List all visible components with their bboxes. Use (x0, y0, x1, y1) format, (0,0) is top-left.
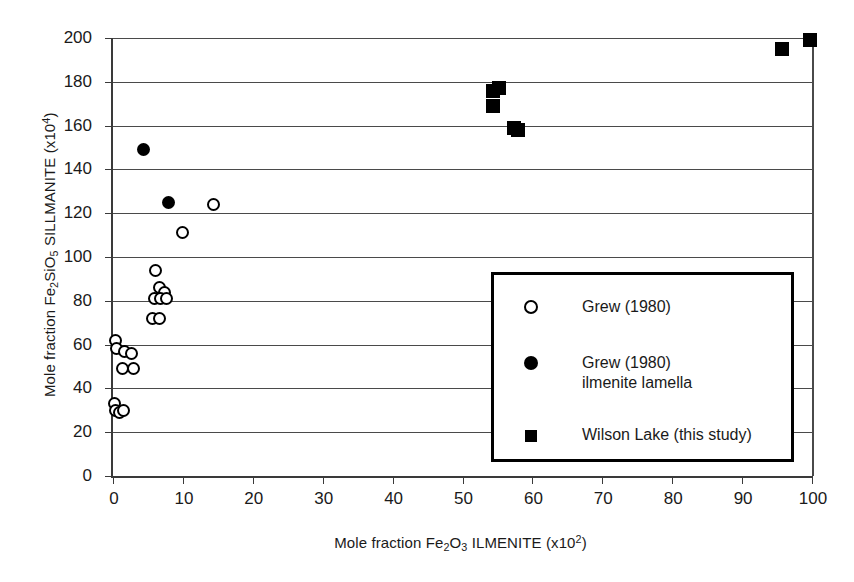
data-point (153, 312, 166, 325)
plot-frame-right (812, 38, 814, 476)
data-point (803, 33, 817, 47)
y-axis-title-mid: SiO (41, 256, 58, 281)
y-tick-100: 100 (105, 257, 113, 258)
gridline-y-160 (113, 126, 812, 127)
legend-label: Grew (1980) ilmenite lamella (582, 353, 692, 393)
y-tick-label-80: 80 (73, 291, 92, 311)
gridline-y-120 (113, 213, 812, 214)
x-tick-label-50: 50 (454, 489, 473, 509)
x-axis-title-prefix: Mole fraction Fe (334, 534, 443, 551)
y-tick-20: 20 (105, 432, 113, 433)
x-tick-label-100: 100 (799, 489, 827, 509)
scatter-chart-figure: Mole fraction Fe2SiO5 SILLMANITE (x104) … (0, 0, 854, 582)
x-tick-label-40: 40 (384, 489, 403, 509)
x-tick-40: 40 (393, 476, 394, 484)
y-tick-40: 40 (105, 388, 113, 389)
x-tick-100: 100 (812, 476, 813, 484)
x-tick-label-20: 20 (244, 489, 263, 509)
data-point (162, 196, 175, 209)
gridline-y-140 (113, 169, 812, 170)
y-axis-title-prefix: Mole fraction Fe (41, 288, 58, 397)
y-axis-title-sub2: 5 (48, 250, 60, 256)
y-tick-0: 0 (105, 476, 113, 477)
data-point (117, 404, 130, 417)
x-tick-label-30: 30 (314, 489, 333, 509)
x-tick-label-70: 70 (594, 489, 613, 509)
data-point (160, 292, 173, 305)
y-tick-180: 180 (105, 82, 113, 83)
y-tick-label-200: 200 (64, 28, 92, 48)
y-axis-title-tail: ) (41, 113, 58, 118)
x-axis-title: Mole fraction Fe2O3 ILMENITE (x102) (111, 533, 810, 553)
gridline-y-200 (113, 38, 812, 39)
y-axis-title-exponent: 4 (40, 118, 52, 124)
x-tick-label-60: 60 (524, 489, 543, 509)
data-point (125, 347, 138, 360)
x-tick-label-0: 0 (109, 489, 118, 509)
x-tick-0: 0 (113, 476, 114, 484)
y-axis-title: Mole fraction Fe2SiO5 SILLMANITE (x104) (40, 35, 60, 475)
x-tick-80: 80 (672, 476, 673, 484)
y-tick-label-180: 180 (64, 72, 92, 92)
x-tick-10: 10 (183, 476, 184, 484)
legend-marker-filled-circle-icon (516, 353, 546, 370)
y-axis-title-suffix: SILLMANITE (x10 (41, 124, 58, 251)
data-point (775, 42, 789, 56)
y-tick-label-160: 160 (64, 116, 92, 136)
legend-marker-open-circle-icon (516, 297, 546, 314)
x-axis-title-mid: O (450, 534, 462, 551)
y-axis-title-sub1: 2 (48, 282, 60, 288)
legend-entry-3[interactable]: Wilson Lake (this study) (516, 425, 752, 445)
gridline-y-100 (113, 257, 812, 258)
x-tick-50: 50 (463, 476, 464, 484)
y-tick-label-120: 120 (64, 203, 92, 223)
filled-square-icon (525, 430, 537, 442)
x-axis-title-suffix: ILMENITE (x10 (467, 534, 575, 551)
y-tick-label-20: 20 (73, 422, 92, 442)
x-tick-90: 90 (742, 476, 743, 484)
legend-label: Wilson Lake (this study) (582, 425, 752, 445)
x-tick-20: 20 (253, 476, 254, 484)
y-tick-200: 200 (105, 38, 113, 39)
x-tick-60: 60 (532, 476, 533, 484)
y-tick-label-140: 140 (64, 159, 92, 179)
y-tick-label-60: 60 (73, 335, 92, 355)
x-tick-label-10: 10 (174, 489, 193, 509)
y-tick-label-0: 0 (83, 466, 92, 486)
open-circle-icon (524, 300, 538, 314)
x-tick-label-90: 90 (734, 489, 753, 509)
data-point (127, 362, 140, 375)
gridline-y-180 (113, 82, 812, 83)
x-tick-label-80: 80 (664, 489, 683, 509)
y-tick-label-40: 40 (73, 378, 92, 398)
y-tick-160: 160 (105, 126, 113, 127)
data-point (176, 226, 189, 239)
legend-label: Grew (1980) (582, 297, 671, 317)
y-tick-80: 80 (105, 301, 113, 302)
legend-box: Grew (1980)Grew (1980) ilmenite lamellaW… (491, 272, 794, 462)
y-tick-label-100: 100 (64, 247, 92, 267)
x-axis-title-tail: ) (582, 534, 587, 551)
filled-circle-icon (524, 356, 538, 370)
data-point (207, 198, 220, 211)
legend-entry-1[interactable]: Grew (1980) (516, 297, 671, 317)
x-tick-30: 30 (323, 476, 324, 484)
x-tick-70: 70 (602, 476, 603, 484)
legend-entry-2[interactable]: Grew (1980) ilmenite lamella (516, 353, 692, 393)
data-point (492, 81, 506, 95)
y-tick-140: 140 (105, 169, 113, 170)
legend-marker-filled-square-icon (516, 425, 546, 442)
data-point (511, 123, 525, 137)
data-point (486, 99, 500, 113)
data-point (149, 264, 162, 277)
data-point (137, 143, 150, 156)
y-tick-120: 120 (105, 213, 113, 214)
